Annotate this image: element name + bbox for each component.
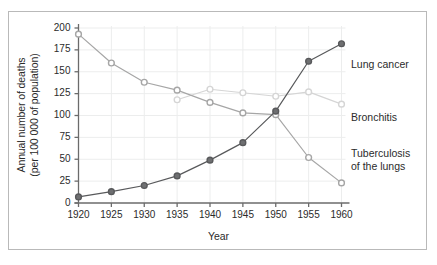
y-tick-label: 0	[37, 197, 71, 208]
data-point-marker	[108, 189, 114, 195]
data-point-marker	[108, 60, 114, 66]
data-point-marker	[306, 89, 312, 95]
series-label: Tuberculosis of the lungs	[351, 147, 410, 172]
data-point-marker	[339, 101, 345, 107]
series-bronchitis	[174, 86, 344, 107]
y-tick-label: 50	[37, 153, 71, 164]
y-tick-label: 75	[37, 131, 71, 142]
data-point-marker	[306, 155, 312, 161]
data-point-marker	[174, 87, 180, 93]
data-point-marker	[141, 183, 147, 189]
data-point-marker	[76, 194, 82, 200]
data-point-marker	[273, 108, 279, 114]
data-point-marker	[240, 140, 246, 146]
data-point-marker	[141, 79, 147, 85]
y-tick-label: 100	[37, 109, 71, 120]
data-point-marker	[306, 58, 312, 64]
data-point-marker	[76, 31, 82, 37]
x-tick-label: 1960	[322, 209, 362, 220]
y-tick-label: 150	[37, 65, 71, 76]
series-line	[177, 89, 341, 104]
data-point-marker	[240, 90, 246, 96]
data-point-marker	[339, 180, 345, 186]
data-point-marker	[207, 99, 213, 105]
series-label: Bronchitis	[351, 111, 397, 124]
y-tick-label: 175	[37, 43, 71, 54]
data-point-marker	[240, 110, 246, 116]
y-tick-label: 125	[37, 87, 71, 98]
series-label: Lung cancer	[351, 58, 409, 71]
chart-figure: Annual number of deaths (per 100 000 of …	[0, 0, 437, 265]
data-point-marker	[207, 86, 213, 92]
data-point-marker	[273, 93, 279, 99]
data-point-marker	[174, 173, 180, 179]
data-point-marker	[174, 97, 180, 103]
y-tick-label: 200	[37, 22, 71, 33]
y-tick-label: 25	[37, 175, 71, 186]
data-point-marker	[207, 157, 213, 163]
data-point-marker	[339, 41, 345, 47]
